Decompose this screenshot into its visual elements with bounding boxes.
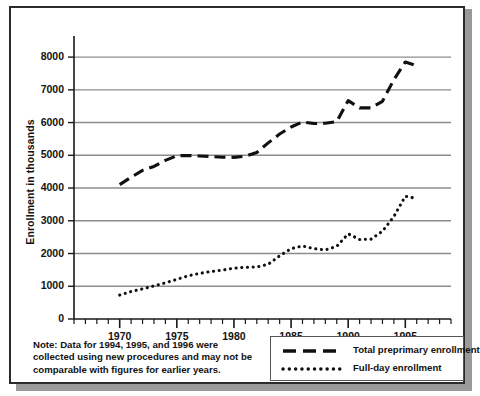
- figure-shadow-bottom: [16, 384, 472, 391]
- chart-frame: Enrollment in thousands 0100020003000400…: [9, 6, 465, 384]
- legend-item-full-day-enrollment: Full-day enrollment: [271, 360, 463, 378]
- line-chart-plot: [11, 8, 463, 382]
- y-axis-tick-label: 6000: [24, 116, 64, 128]
- legend-swatch-dotted: [281, 360, 343, 378]
- y-axis-tick-label: 5000: [24, 148, 64, 160]
- y-axis-tick-label: 3000: [24, 214, 64, 226]
- y-axis-tick-label: 1000: [24, 279, 64, 291]
- y-axis-tick-label: 7000: [24, 83, 64, 95]
- chart-legend: Total preprimary enrollment Full-day enr…: [270, 336, 464, 381]
- legend-label: Full-day enrollment: [353, 362, 442, 373]
- y-axis-tick-label: 2000: [24, 247, 64, 259]
- figure-shadow-right: [465, 9, 472, 391]
- legend-item-total-preprimary-enrollment: Total preprimary enrollment: [271, 342, 463, 360]
- y-axis-tick-label: 8000: [24, 50, 64, 62]
- legend-label: Total preprimary enrollment: [353, 344, 480, 355]
- chart-note: Note: Data for 1994, 1995, and 1996 were…: [33, 339, 258, 376]
- y-axis-tick-label: 4000: [24, 181, 64, 193]
- legend-swatch-dashed: [281, 342, 343, 360]
- y-axis-tick-label: 0: [24, 312, 64, 324]
